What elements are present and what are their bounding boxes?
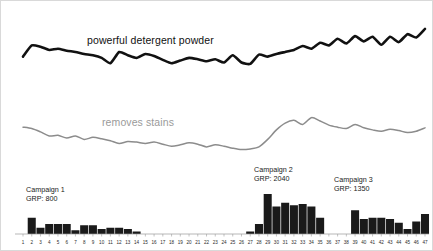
campaign-1-name: Campaign 1 — [26, 185, 65, 194]
grp-bar — [395, 223, 403, 234]
grp-bar — [404, 229, 412, 234]
grp-bar — [290, 205, 298, 234]
brand-tracking-chart: powerful detergent powder removes stains… — [0, 0, 433, 251]
grp-bar — [98, 229, 106, 234]
grp-bar — [412, 222, 420, 235]
grp-bar — [377, 218, 385, 234]
campaign-1-grp: GRP: 800 — [26, 194, 65, 203]
grp-bar — [360, 219, 368, 234]
grp-bar — [36, 228, 44, 234]
chart-canvas — [1, 1, 433, 251]
grp-bar — [369, 218, 377, 234]
x-tick-label: 47 — [419, 240, 431, 245]
grp-bar — [54, 224, 62, 234]
grp-bar — [80, 225, 88, 234]
grp-bar — [307, 207, 315, 235]
campaign-3-grp: GRP: 1350 — [334, 184, 373, 193]
campaign-2-annotation: Campaign 2 GRP: 2040 — [254, 165, 293, 183]
grp-bar — [71, 230, 79, 234]
grp-bar — [281, 203, 289, 234]
grp-bar — [246, 232, 254, 235]
grp-bar — [63, 224, 71, 234]
campaign-1-annotation: Campaign 1 GRP: 800 — [26, 185, 65, 203]
campaign-3-annotation: Campaign 3 GRP: 1350 — [334, 175, 373, 193]
series-line-black — [23, 29, 425, 64]
campaign-3-name: Campaign 3 — [334, 175, 373, 184]
grp-bar — [421, 214, 429, 234]
campaign-2-grp: GRP: 2040 — [254, 174, 293, 183]
grp-bar — [28, 218, 36, 234]
grp-bar — [264, 194, 272, 234]
series-label-powerful-detergent-powder: powerful detergent powder — [87, 34, 214, 46]
series-line-gray — [23, 118, 425, 150]
grp-bar — [351, 210, 359, 234]
grp-bar — [255, 224, 263, 234]
grp-bar-series — [28, 194, 429, 234]
bar-baseline-axis — [15, 234, 429, 237]
grp-bar — [124, 229, 132, 234]
grp-bar — [272, 207, 280, 235]
grp-bar — [45, 224, 53, 234]
grp-bar — [316, 218, 324, 234]
grp-bar — [133, 232, 141, 235]
series-label-removes-stains: removes stains — [102, 116, 174, 128]
grp-bar — [386, 219, 394, 234]
grp-bar — [106, 228, 114, 234]
campaign-2-name: Campaign 2 — [254, 165, 293, 174]
grp-bar — [115, 228, 123, 234]
grp-bar — [89, 225, 97, 234]
grp-bar — [299, 204, 307, 234]
